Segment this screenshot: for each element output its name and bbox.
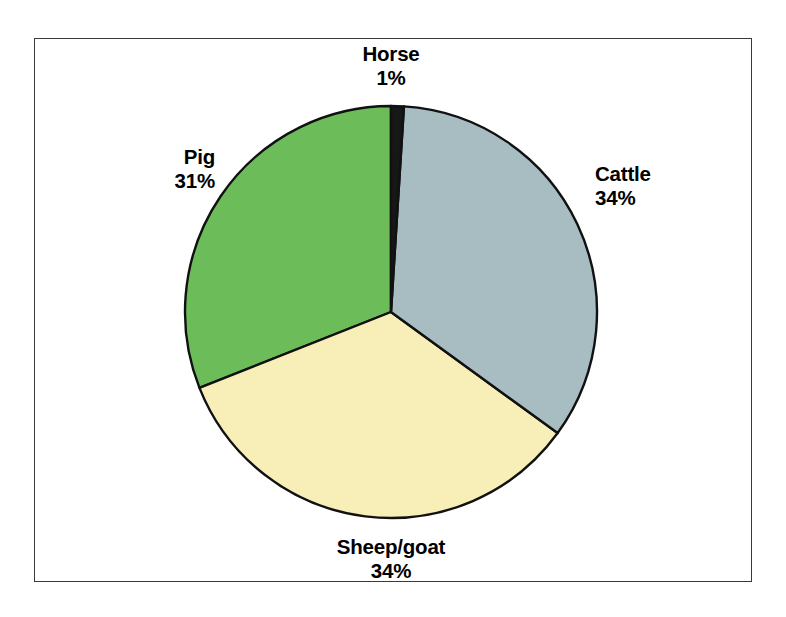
pie-label-horse: Horse 1% — [291, 42, 491, 90]
pie-label-sheep-goat-value: 34% — [291, 559, 491, 583]
pie-chart-graphic — [0, 0, 786, 617]
pie-label-horse-name: Horse — [362, 42, 419, 65]
pie-label-pig-name: Pig — [184, 145, 215, 168]
pie-label-sheep-goat: Sheep/goat 34% — [291, 535, 491, 583]
pie-label-sheep-goat-name: Sheep/goat — [337, 535, 446, 558]
pie-label-horse-value: 1% — [291, 66, 491, 90]
pie-chart-figure: Horse 1% Cattle 34% Pig 31% Sheep/goat 3… — [0, 0, 786, 617]
pie-label-cattle-name: Cattle — [595, 162, 651, 185]
pie-label-pig: Pig 31% — [75, 145, 215, 193]
pie-label-cattle: Cattle 34% — [595, 162, 735, 210]
pie-label-cattle-value: 34% — [595, 186, 735, 210]
pie-label-pig-value: 31% — [75, 169, 215, 193]
